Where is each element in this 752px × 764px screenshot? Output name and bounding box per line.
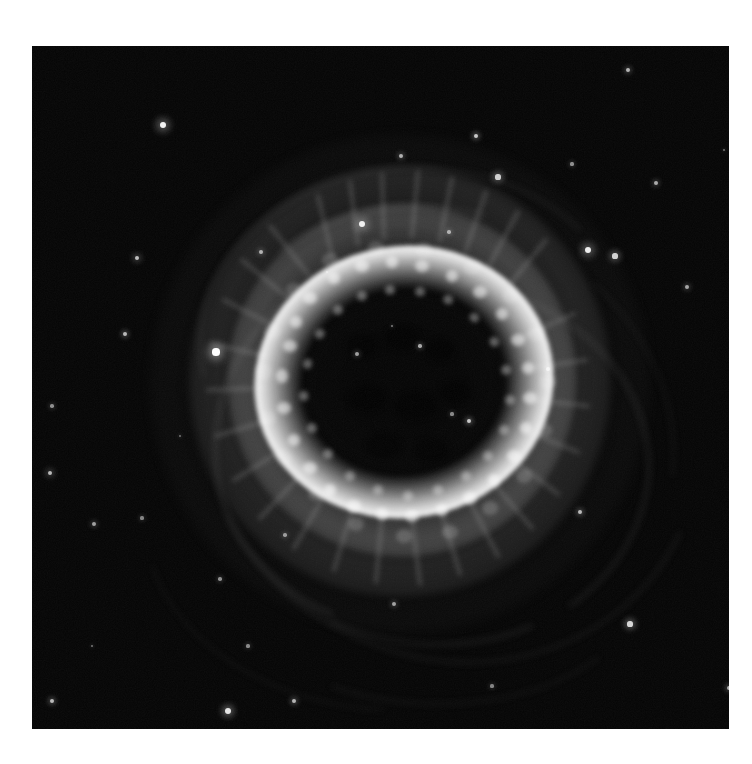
star-point — [727, 686, 729, 690]
star-point — [546, 367, 550, 371]
star-point — [212, 348, 219, 355]
star-point — [135, 256, 140, 261]
star-point — [418, 344, 422, 348]
star-point — [654, 181, 658, 185]
star-point — [50, 699, 54, 703]
star-point — [326, 271, 329, 274]
star-point — [585, 247, 591, 253]
star-point — [50, 404, 54, 408]
star-point — [292, 699, 296, 703]
star-point — [391, 325, 394, 328]
star-point — [92, 522, 96, 526]
star-point — [612, 253, 617, 258]
star-point — [123, 332, 127, 336]
star-point — [140, 516, 143, 519]
star-point — [283, 533, 287, 537]
star-point — [450, 412, 453, 415]
star-point — [490, 684, 493, 687]
star-point — [467, 419, 471, 423]
star-point — [392, 602, 396, 606]
star-point — [685, 285, 689, 289]
star-point — [91, 645, 94, 648]
star-point — [355, 352, 359, 356]
page-root — [0, 0, 752, 764]
star-point — [225, 708, 231, 714]
star-point — [495, 174, 500, 179]
star-point — [359, 221, 365, 227]
star-point — [218, 577, 222, 581]
star-point — [48, 471, 53, 476]
star-field — [32, 46, 729, 729]
star-point — [246, 644, 249, 647]
star-point — [160, 122, 167, 129]
star-point — [578, 510, 582, 514]
star-point — [179, 435, 182, 438]
star-point — [474, 134, 478, 138]
star-point — [627, 621, 632, 626]
star-point — [723, 149, 726, 152]
astronomical-image-plate — [32, 46, 729, 729]
star-point — [626, 68, 630, 72]
star-point — [570, 162, 573, 165]
star-point — [399, 154, 403, 158]
star-point — [259, 250, 263, 254]
star-point — [447, 230, 451, 234]
